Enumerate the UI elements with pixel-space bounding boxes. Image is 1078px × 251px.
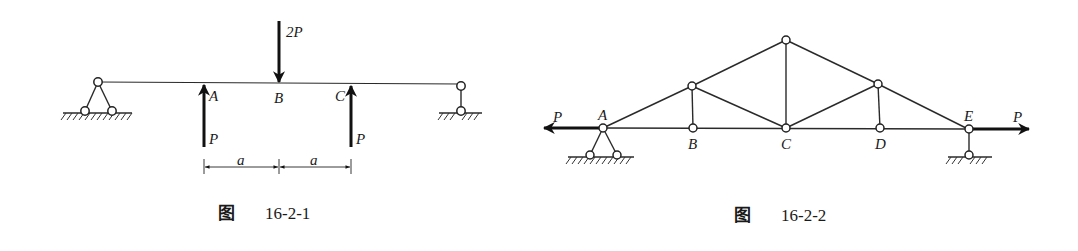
pin-support-a <box>566 128 634 164</box>
joint-label-d: D <box>874 136 886 152</box>
load-p-right-label: P <box>355 131 365 147</box>
diagram-canvas: 2P P P A B C a a 图 16-2-1 <box>0 0 1078 251</box>
figure-beam: 2P P P A B C a a 图 16-2-1 <box>61 21 482 223</box>
joint-label-c: C <box>781 136 792 152</box>
load-p-left-label: P <box>208 131 218 147</box>
load-2p-arrow: 2P <box>279 21 303 82</box>
roller-support-right <box>438 82 482 120</box>
load-p-right-arrow: P <box>968 109 1029 129</box>
point-label-c: C <box>335 88 346 104</box>
figure-truss: P P <box>544 36 1029 225</box>
truss-load-left-label: P <box>552 109 562 125</box>
point-label-b: B <box>274 90 283 106</box>
figure-caption-number: 16-2-2 <box>781 206 826 225</box>
load-p-left-arrow: P <box>544 109 603 128</box>
figure-caption-prefix: 图 <box>734 205 751 225</box>
dimension-label-a1: a <box>237 152 245 168</box>
dimension-label-a2: a <box>310 152 318 168</box>
figure-caption-prefix: 图 <box>218 203 235 223</box>
beam-member <box>98 82 461 84</box>
load-p-right-arrow: P <box>351 86 365 147</box>
point-label-a: A <box>208 88 219 104</box>
truss-load-right-label: P <box>1012 109 1022 125</box>
dimension-lines: a a <box>204 152 351 174</box>
roller-support-e <box>946 130 992 164</box>
truss-members <box>603 40 968 129</box>
load-2p-label: 2P <box>286 24 303 40</box>
figure-caption-number: 16-2-1 <box>265 204 310 223</box>
pin-support-left <box>61 78 132 120</box>
joint-label-b: B <box>688 136 697 152</box>
joint-label-e: E <box>963 108 973 124</box>
joint-label-a: A <box>597 107 608 123</box>
